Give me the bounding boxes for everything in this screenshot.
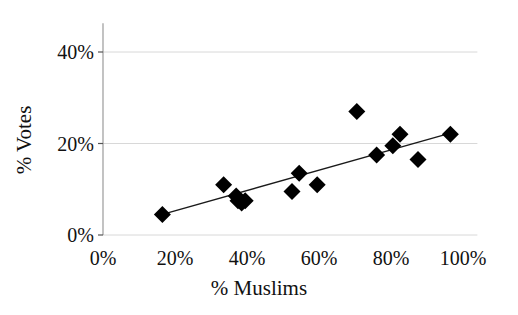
axis-line-group bbox=[98, 23, 103, 235]
x-axis-title: % Muslims bbox=[211, 278, 307, 299]
data-point bbox=[368, 146, 385, 163]
trendline bbox=[162, 132, 454, 214]
data-point-group bbox=[154, 103, 459, 223]
data-point bbox=[309, 176, 326, 193]
data-point bbox=[215, 176, 232, 193]
x-tick-label: 100% bbox=[440, 248, 487, 268]
y-tick-label: 40% bbox=[30, 42, 94, 62]
y-tick-label: 0% bbox=[30, 225, 94, 245]
x-tick-label: 0% bbox=[90, 248, 117, 268]
y-tick-label: 20% bbox=[30, 134, 94, 154]
x-tick-label: 80% bbox=[373, 248, 410, 268]
gridline-group bbox=[103, 52, 477, 235]
data-point bbox=[348, 103, 365, 120]
y-axis-title: % Votes bbox=[14, 106, 35, 175]
trendline-segment bbox=[162, 132, 454, 214]
x-tick-label: 40% bbox=[229, 248, 266, 268]
data-point bbox=[154, 206, 171, 223]
scatter-chart: 0%20%40% 0%20%40%60%80%100% % Votes % Mu… bbox=[0, 0, 518, 315]
x-tick-label: 20% bbox=[157, 248, 194, 268]
data-point bbox=[442, 126, 459, 143]
data-point bbox=[284, 183, 301, 200]
data-point bbox=[410, 151, 427, 168]
data-point bbox=[291, 165, 308, 182]
x-tick-label: 60% bbox=[301, 248, 338, 268]
